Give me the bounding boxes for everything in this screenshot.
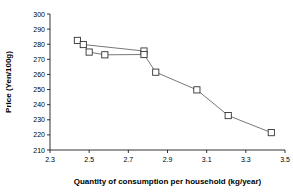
y-tick-label: 280: [33, 41, 45, 48]
data-point-marker: [74, 37, 80, 43]
x-tick-label: 2.9: [163, 156, 173, 163]
x-axis-title: Quantity of consumption per household (k…: [74, 177, 262, 186]
x-tick-label: 2.3: [45, 156, 55, 163]
y-tick-label: 240: [33, 101, 45, 108]
data-point-marker: [268, 130, 274, 136]
x-tick-label: 3.1: [202, 156, 212, 163]
data-point-marker: [80, 41, 86, 47]
series-data-point-markers: [74, 37, 274, 135]
data-point-marker: [153, 69, 159, 75]
x-axis-tick-labels: 2.32.52.72.93.13.33.5: [45, 156, 290, 163]
y-axis-tick-marks: [47, 14, 50, 150]
y-tick-label: 260: [33, 71, 45, 78]
x-tick-label: 3.5: [280, 156, 290, 163]
chart-container: 210220230240250260270280290300 2.32.52.7…: [0, 0, 293, 192]
data-point-marker: [141, 51, 147, 57]
price-vs-quantity-line-chart: 210220230240250260270280290300 2.32.52.7…: [0, 0, 293, 192]
data-point-marker: [194, 87, 200, 93]
y-tick-label: 250: [33, 86, 45, 93]
x-tick-label: 2.7: [123, 156, 133, 163]
data-point-marker: [102, 52, 108, 58]
y-tick-label: 290: [33, 26, 45, 33]
y-tick-label: 230: [33, 116, 45, 123]
y-axis-title: Price (Yen/100g): [4, 51, 13, 113]
x-tick-label: 2.5: [84, 156, 94, 163]
x-axis-tick-marks: [50, 150, 285, 153]
x-tick-label: 3.3: [241, 156, 251, 163]
y-axis-tick-labels: 210220230240250260270280290300: [33, 11, 45, 154]
y-tick-label: 210: [33, 147, 45, 154]
data-point-marker: [86, 49, 92, 55]
y-tick-label: 220: [33, 131, 45, 138]
y-tick-label: 300: [33, 11, 45, 18]
data-point-marker: [225, 112, 231, 118]
y-tick-label: 270: [33, 56, 45, 63]
